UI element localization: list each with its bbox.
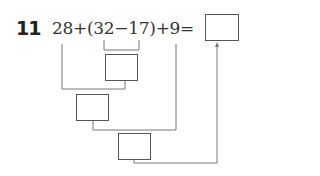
step3-answer-box[interactable] [118,133,151,160]
final-answer-box[interactable] [205,14,239,41]
arrow-up-icon [215,42,219,47]
step2-answer-box[interactable] [76,94,109,121]
step1-answer-box[interactable] [105,54,138,81]
